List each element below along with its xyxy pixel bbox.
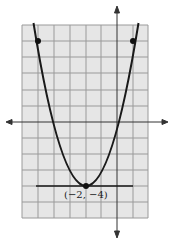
x-axis-right-arrow-icon xyxy=(162,120,168,125)
y-axis-up-arrow-icon xyxy=(115,6,120,13)
graph xyxy=(0,0,175,244)
x-axis-left-arrow-icon xyxy=(6,120,12,125)
y-axis-down-arrow-icon xyxy=(115,231,120,238)
vertex-label: (−2, −4) xyxy=(64,189,108,200)
point-left xyxy=(35,38,41,44)
point-right xyxy=(130,38,136,44)
